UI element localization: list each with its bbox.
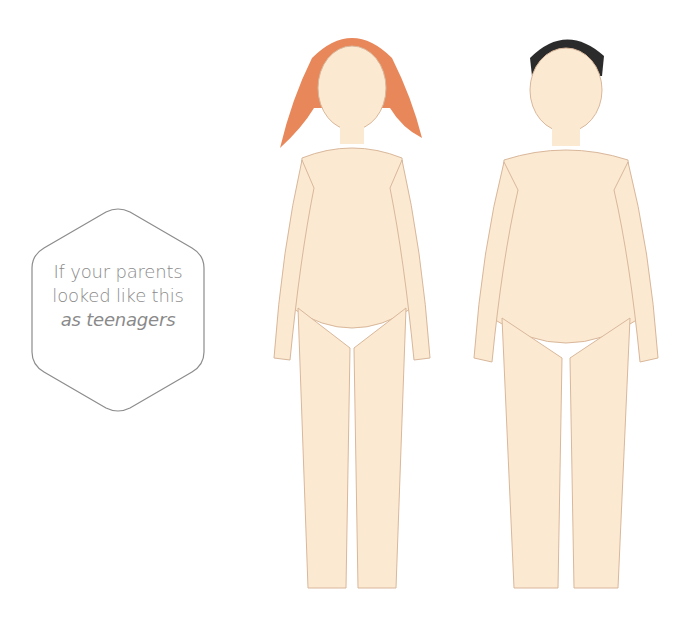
caption-line-2: looked like this <box>28 284 208 308</box>
caption-line-1: If your parents <box>28 260 208 284</box>
teenage-father-illustration <box>468 28 664 608</box>
caption-line-3: as teenagers <box>28 308 208 332</box>
teenage-mother-illustration <box>262 28 442 608</box>
hexagon-caption: If your parents looked like this as teen… <box>28 208 208 412</box>
caption-text: If your parents looked like this as teen… <box>28 260 208 332</box>
